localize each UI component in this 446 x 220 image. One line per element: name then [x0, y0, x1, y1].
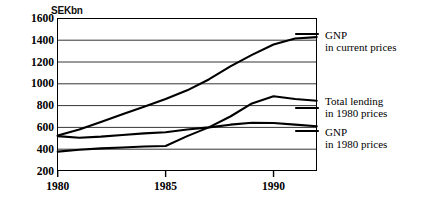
legend-label-secondary: in 1980 prices	[325, 108, 387, 120]
legend-label-primary: GNP	[325, 30, 396, 42]
x-tick-label-1990: 1990	[262, 180, 285, 192]
legend-label-primary: GNP	[325, 127, 387, 139]
x-axis-ticks	[58, 171, 274, 177]
legend-swatch-lines	[296, 34, 318, 131]
data-series-lines	[58, 37, 317, 151]
legend-label-secondary: in 1980 prices	[325, 139, 387, 151]
legend-label-primary: Total lending	[325, 96, 387, 108]
series-line-0	[58, 37, 317, 135]
chart-figure: SEKbn 1600140012001000800600400200 GNPin…	[0, 0, 446, 220]
legend-entry-0: GNPin current prices	[325, 30, 396, 53]
legend-entry-1: Total lendingin 1980 prices	[325, 96, 387, 119]
x-tick-label-1980: 1980	[46, 180, 69, 192]
x-tick-label-1985: 1985	[154, 180, 177, 192]
gridlines	[58, 40, 317, 149]
legend-entry-2: GNPin 1980 prices	[325, 127, 387, 150]
legend-label-secondary: in current prices	[325, 42, 396, 54]
